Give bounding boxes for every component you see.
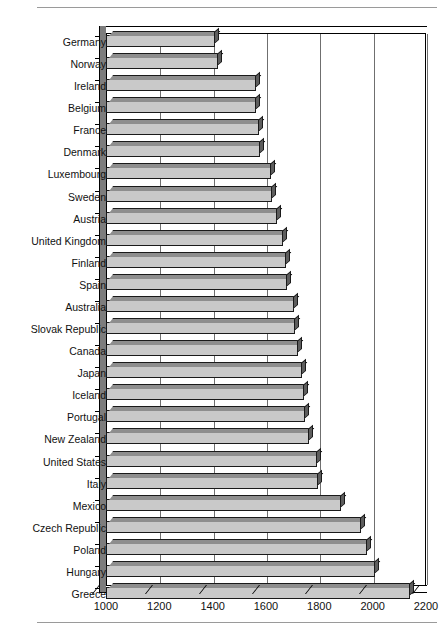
y-axis-tick — [95, 411, 100, 412]
bar-top-face — [109, 384, 309, 389]
y-axis-tick — [95, 191, 100, 192]
x-tick-label-1600: 1600 — [236, 600, 296, 612]
bar-new-zealand[interactable] — [106, 432, 309, 444]
bar-top-face — [109, 119, 264, 124]
y-axis-tick — [95, 433, 100, 434]
bar-top-face — [109, 517, 366, 522]
bar-top-face — [109, 318, 300, 323]
bar-italy[interactable] — [106, 477, 318, 489]
bar-hungary[interactable] — [106, 565, 375, 577]
category-label-united-states: United States — [0, 457, 106, 468]
category-label-italy: Italy — [0, 479, 106, 490]
bar-top-face — [109, 97, 261, 102]
category-label-norway: Norway — [0, 59, 106, 70]
bar-top-face — [109, 428, 314, 433]
y-axis-tick — [95, 522, 100, 523]
x-tick-label-1200: 1200 — [129, 600, 189, 612]
category-label-ireland: Ireland — [0, 81, 106, 92]
bar-top-face — [109, 495, 346, 500]
x-tick-1200 — [152, 585, 159, 592]
category-label-spain: Spain — [0, 280, 106, 291]
bar-austria[interactable] — [106, 212, 277, 224]
bar-top-face — [109, 362, 307, 367]
y-axis-tick — [95, 257, 100, 258]
category-label-australia: Australia — [0, 302, 106, 313]
horizontal-bar-chart: GermanyNorwayIrelandBelgiumFranceDenmark… — [0, 0, 446, 631]
x-tick-1400 — [206, 585, 213, 592]
bar-belgium[interactable] — [106, 101, 256, 113]
bar-top-face — [109, 252, 291, 257]
y-axis-tick — [95, 389, 100, 390]
bar-australia[interactable] — [106, 300, 294, 312]
bar-top-face — [109, 340, 303, 345]
bar-top-face — [109, 163, 277, 168]
gridline-2000 — [374, 34, 375, 585]
y-axis-tick — [95, 235, 100, 236]
category-label-united-kingdom: United Kingdom — [0, 236, 106, 247]
bar-sweden[interactable] — [106, 190, 272, 202]
bar-iceland[interactable] — [106, 388, 304, 400]
x-tick-2000 — [366, 585, 373, 592]
bar-spain[interactable] — [106, 278, 287, 290]
y-axis-tick — [95, 80, 100, 81]
y-axis-tick — [95, 566, 100, 567]
bar-top-face — [109, 31, 220, 36]
y-axis-tick — [95, 36, 100, 37]
y-axis-tick — [95, 102, 100, 103]
bar-top-face — [109, 75, 261, 80]
x-tick-1000 — [99, 585, 106, 592]
x-tick-label-1800: 1800 — [289, 600, 349, 612]
category-label-greece: Greece — [0, 589, 106, 600]
category-label-japan: Japan — [0, 368, 106, 379]
category-label-germany: Germany — [0, 37, 106, 48]
bar-finland[interactable] — [106, 256, 286, 268]
bar-top-face — [109, 274, 293, 279]
bar-norway[interactable] — [106, 57, 218, 69]
category-label-mexico: Mexico — [0, 501, 106, 512]
bar-top-face — [109, 539, 373, 544]
bar-portugal[interactable] — [106, 410, 305, 422]
y-axis-tick — [95, 500, 100, 501]
category-label-france: France — [0, 125, 106, 136]
y-axis-tick — [95, 478, 100, 479]
bar-poland[interactable] — [106, 543, 367, 555]
bar-slovak-republic[interactable] — [106, 322, 295, 334]
category-label-austria: Austria — [0, 214, 106, 225]
y-axis-tick — [95, 146, 100, 147]
category-label-finland: Finland — [0, 258, 106, 269]
bar-top-face — [109, 406, 311, 411]
bar-germany[interactable] — [106, 35, 215, 47]
bar-top-face — [109, 451, 322, 456]
y-axis-tick — [95, 124, 100, 125]
bar-ireland[interactable] — [106, 79, 256, 91]
bar-united-kingdom[interactable] — [106, 234, 283, 246]
category-label-iceland: Iceland — [0, 390, 106, 401]
bar-top-face — [109, 296, 299, 301]
bar-canada[interactable] — [106, 344, 298, 356]
category-label-canada: Canada — [0, 346, 106, 357]
y-axis-tick — [95, 456, 100, 457]
y-axis-tick — [95, 367, 100, 368]
y-axis-tick — [95, 58, 100, 59]
y-axis-tick — [95, 279, 100, 280]
bar-japan[interactable] — [106, 366, 302, 378]
category-label-czech-republic: Czech Republic — [0, 523, 106, 534]
gridline-2200 — [427, 34, 428, 585]
bar-czech-republic[interactable] — [106, 521, 361, 533]
bar-france[interactable] — [106, 123, 259, 135]
category-label-slovak-republic: Slovak Republic — [0, 324, 106, 335]
category-label-hungary: Hungary — [0, 567, 106, 578]
y-axis-tick — [95, 213, 100, 214]
bar-top-face — [109, 561, 381, 566]
x-tick-1600 — [259, 585, 266, 592]
category-label-luxembourg: Luxembourg — [0, 169, 106, 180]
bar-denmark[interactable] — [106, 145, 260, 157]
x-tick-2200 — [419, 585, 426, 592]
y-axis-tick — [95, 323, 100, 324]
bar-mexico[interactable] — [106, 499, 341, 511]
bar-luxembourg[interactable] — [106, 167, 271, 179]
bar-united-states[interactable] — [106, 455, 317, 467]
category-label-sweden: Sweden — [0, 192, 106, 203]
bar-top-face — [109, 141, 265, 146]
y-axis-tick — [95, 301, 100, 302]
